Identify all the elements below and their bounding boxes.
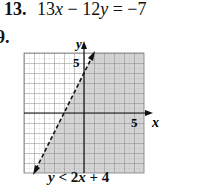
inequality-caption: y < 2x + 4 (48, 169, 109, 186)
caption-y: y (48, 169, 55, 185)
caption-x: x (78, 169, 86, 185)
y-axis-label: y (74, 36, 82, 51)
y-tick-5: 5 (73, 55, 80, 70)
inequality-graph: y 5 5 x (0, 0, 202, 192)
x-tick-5: 5 (131, 115, 138, 130)
y-axis-arrow-icon (81, 41, 87, 49)
caption-less-than: < 2 (55, 169, 79, 185)
caption-plus-4: + 4 (86, 169, 110, 185)
x-axis-label: x (151, 115, 159, 130)
